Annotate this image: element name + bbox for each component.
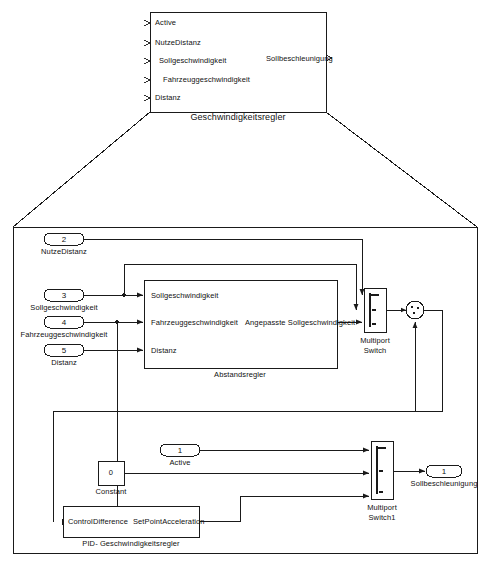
outport-1-label: Sollbeschleunigung [411,479,478,488]
abstandsregler-caption: Abstandsregler [214,370,266,379]
abstandsregler-input-label-distanz: Distanz [151,346,177,355]
top-block-output-label-sollbeschleunigung: Sollbeschleunigung [266,54,333,63]
outport-1-number: 1 [442,467,447,476]
multiport-switch1-caption-line2: Switch1 [369,513,396,522]
inport-3-number: 3 [62,291,67,300]
pid-block-input-label-controldifference: ControlDifference [68,517,128,526]
inport-5-number: 5 [62,346,67,355]
pid-block-caption: PID- Geschwindigkeitsregler [82,539,179,548]
subsystem-outer-rect [13,227,477,553]
top-block-input-ports [144,20,150,101]
inport-2-label: NutzeDistanz [41,247,87,256]
inport-2-number: 2 [62,235,67,244]
top-block-input-label-distanz: Distanz [155,93,181,102]
top-block-input-label-fahrzeuggeschwindigkeit: Fahrzeuggeschwindigkeit [163,75,250,84]
inport-1-label: Active [169,458,190,467]
constant-block-caption: Constant [96,487,127,496]
top-block-input-label-sollgeschwindigkeit: Sollgeschwindigkeit [159,56,226,65]
multiport-switch1-rect [371,441,393,499]
sum-block-circle [406,301,424,319]
multiport-switch-caption-line1: Multiport [360,336,390,345]
top-block-input-label-nutzedistanz: NutzeDistanz [155,38,201,47]
multiport-switch-caption-line2: Switch [364,346,387,355]
block-diagram-canvas: Active NutzeDistanz Sollgeschwindigkeit … [0,0,488,563]
inport-1-number: 1 [178,446,183,455]
inport-3-label: Sollgeschwindigkeit [30,303,97,312]
inport-5-label: Distanz [51,358,77,367]
expansion-lines [13,112,477,227]
abstandsregler-input-label-fahrzeuggeschwindigkeit: Fahrzeuggeschwindigkeit [151,318,238,327]
multiport-switch1-caption-line1: Multiport [367,503,397,512]
junction-dot-fahrz [115,320,119,324]
pid-block-output-label-setpointacceleration: SetPointAcceleration [133,517,205,526]
constant-block-value: 0 [109,468,113,477]
junction-dot-soll [122,293,126,297]
abstandsregler-output-label-angepasste-sollgeschwindigkeit: Angepasste Sollgeschwindigkeit [245,318,355,327]
abstandsregler-input-label-sollgeschwindigkeit: Sollgeschwindigkeit [151,291,218,300]
inport-4-number: 4 [62,318,67,327]
top-block-caption: Geschwindigkeitsregler [190,113,285,122]
top-block-input-label-active: Active [155,18,176,27]
inport-4-label: Fahrzeuggeschwindigkeit [21,330,108,339]
